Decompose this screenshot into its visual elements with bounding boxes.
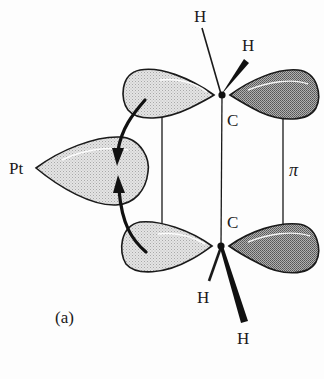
- bottom-left-p-lobe: [122, 222, 212, 272]
- h-bond-bottom-left: [209, 247, 221, 281]
- orbital-diagram: H H C Pt π C H H (a): [0, 0, 324, 379]
- label-carbon-bottom: C: [227, 213, 238, 232]
- label-h-bottom-right: H: [237, 329, 249, 348]
- label-h-bottom-left: H: [197, 288, 209, 307]
- label-h-top-right: H: [242, 36, 254, 55]
- label-pi-bond: π: [289, 160, 299, 180]
- label-carbon-top: C: [227, 111, 238, 130]
- panel-label: (a): [55, 308, 74, 327]
- h-bond-top-left: [202, 28, 221, 94]
- bottom-right-p-lobe: [229, 224, 319, 273]
- carbon-atom-bottom: [217, 242, 224, 249]
- carbon-atom-top: [218, 91, 225, 98]
- label-h-top-left: H: [194, 7, 206, 26]
- cc-bond-line: [221, 95, 222, 246]
- sigma-bond-lines: [162, 95, 283, 246]
- top-right-p-lobe: [230, 70, 319, 119]
- wedge-bond-bottom-right: [220, 246, 248, 323]
- label-metal: Pt: [9, 159, 23, 178]
- pt-d-lobe: [36, 137, 148, 205]
